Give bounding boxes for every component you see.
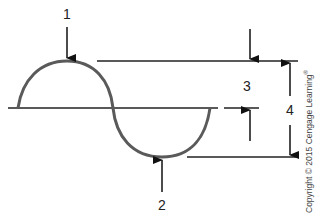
copyright-text: Copyright © 2015 Cengage Learning (304, 74, 314, 213)
wave-curve (18, 61, 210, 157)
registered-mark: ® (303, 70, 309, 74)
wave-diagram (0, 0, 321, 218)
trough-label: 2 (158, 198, 166, 212)
wave-height-label: 4 (286, 103, 294, 117)
copyright-notice: Copyright © 2015 Cengage Learning® (303, 70, 314, 213)
amplitude-label: 3 (243, 79, 251, 93)
crest-label: 1 (63, 7, 71, 21)
